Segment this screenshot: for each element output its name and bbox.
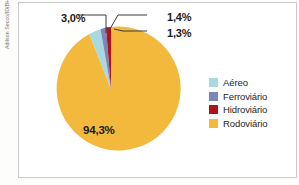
legend-swatch-aereo <box>209 78 218 87</box>
image-credit: Adilson Secco/ID/BH <box>4 0 10 49</box>
legend-swatch-hidroviario <box>209 105 218 114</box>
legend-item-aereo: Aéreo <box>209 76 297 90</box>
legend-item-rodoviario: Rodoviário <box>209 117 297 131</box>
data-label-hidroviario: 1,3% <box>167 27 191 39</box>
legend-label-rodoviario: Rodoviário <box>223 118 267 129</box>
chart-legend: Aéreo Ferroviário Hidroviário Rodoviário <box>209 76 297 130</box>
legend-label-aereo: Aéreo <box>223 77 248 88</box>
plot-area: 3,0% 1,4% 1,3% 94,3% Aéreo Ferroviário H… <box>19 3 298 179</box>
data-label-ferroviario: 1,4% <box>167 11 191 23</box>
pie-chart-figure: Adilson Secco/ID/BH 3,0% 1,4% <box>0 0 299 185</box>
data-label-rodoviario: 94,3% <box>83 124 115 136</box>
legend-swatch-rodoviario <box>209 119 218 128</box>
legend-item-hidroviario: Hidroviário <box>209 103 297 117</box>
legend-item-ferroviario: Ferroviário <box>209 90 297 104</box>
legend-label-hidroviario: Hidroviário <box>223 104 267 115</box>
legend-swatch-ferroviario <box>209 92 218 101</box>
data-label-aereo: 3,0% <box>61 12 85 24</box>
chart-frame: 3,0% 1,4% 1,3% 94,3% Aéreo Ferroviário H… <box>18 2 297 178</box>
pie-slice-rodoviario <box>57 27 181 151</box>
legend-label-ferroviario: Ferroviário <box>223 91 267 102</box>
